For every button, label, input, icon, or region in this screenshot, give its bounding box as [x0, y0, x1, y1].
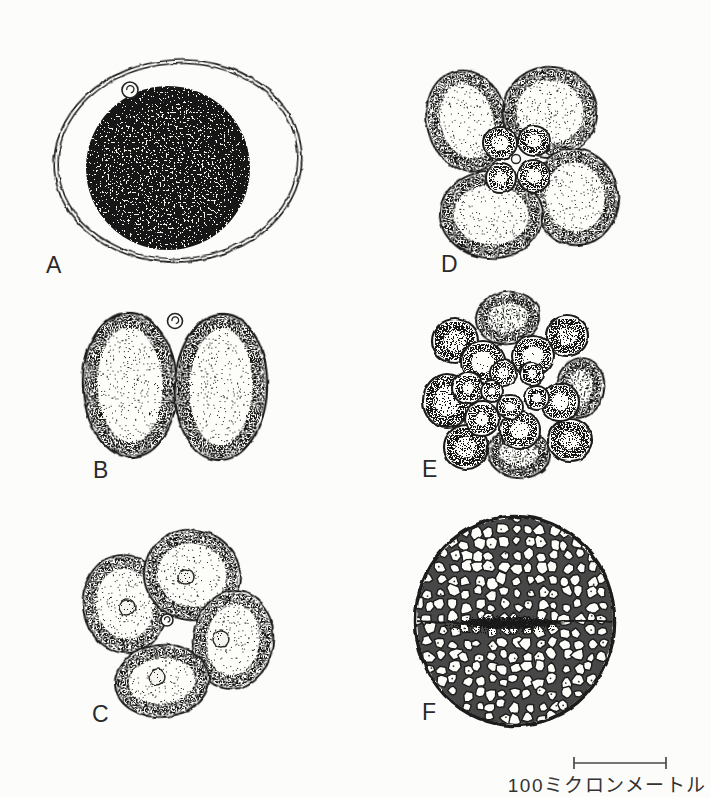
- blastomere-cell: [481, 380, 503, 402]
- blastomere-cell: [81, 311, 180, 458]
- drawing-fertilized-egg: [47, 52, 308, 271]
- scanned-figure-page: A B C D E F 100ミクロンメートル: [0, 0, 711, 797]
- blastomere-cell: [520, 362, 544, 386]
- panel-label-b: B: [93, 459, 108, 482]
- panel-label-d: D: [441, 253, 458, 276]
- polar-body: [161, 614, 173, 626]
- drawing-two-cell-stage: [81, 311, 270, 461]
- scale-bar-label: 100ミクロンメートル: [508, 770, 707, 797]
- drawing-blastula-stage: [413, 514, 615, 726]
- polar-body: [512, 155, 521, 164]
- panel-label-e: E: [422, 458, 437, 481]
- panel-label-c: C: [92, 703, 109, 726]
- polar-body: [122, 82, 138, 98]
- blastomere-cell: [548, 419, 592, 461]
- drawing-four-cell-stage: [77, 521, 280, 722]
- blastomere-cell: [452, 372, 484, 404]
- panel-label-f: F: [422, 701, 436, 724]
- panel-label-a: A: [46, 254, 61, 277]
- blastomere-cell: [518, 160, 550, 192]
- blastomere-cell: [526, 143, 625, 250]
- blastomere-cell: [525, 386, 549, 410]
- scale-bar-line: [574, 757, 666, 769]
- blastomere-cell: [465, 402, 499, 436]
- drawing-eight-cell-stage: [416, 62, 624, 262]
- polar-body: [168, 314, 183, 329]
- drawing-morula-stage: [423, 288, 609, 481]
- blastomere-cell: [483, 127, 517, 159]
- blastomere-cell: [172, 312, 269, 461]
- blastomere-cell: [518, 126, 550, 156]
- embryo-development-figure: [0, 0, 711, 797]
- blastomere-cell: [486, 163, 516, 193]
